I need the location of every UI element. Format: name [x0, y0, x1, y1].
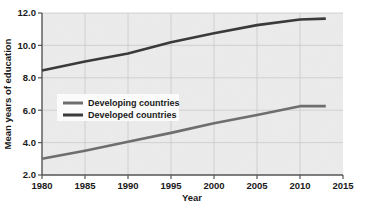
- line-chart-svg: 2.04.06.08.010.012.0 1980198519901995200…: [0, 0, 368, 205]
- legend-label-0: Developing countries: [88, 98, 180, 108]
- x-tick-label: 2015: [332, 180, 354, 191]
- y-tick-label: 2.0: [23, 169, 36, 180]
- chart-legend: Developing countriesDeveloped countries: [57, 94, 180, 121]
- x-axis-title: Year: [182, 192, 202, 203]
- y-tick-label: 12.0: [18, 7, 37, 18]
- x-tick-label: 1990: [117, 180, 138, 191]
- x-tick-label: 2010: [289, 180, 310, 191]
- x-tick-label: 2000: [203, 180, 224, 191]
- x-tick-label: 1985: [74, 180, 96, 191]
- y-tick-label: 6.0: [23, 105, 36, 116]
- y-tick-label: 8.0: [23, 72, 36, 83]
- legend-label-1: Developed countries: [88, 110, 177, 120]
- y-tick-label: 4.0: [23, 137, 36, 148]
- x-tick-label: 2005: [246, 180, 268, 191]
- x-tick-label: 1995: [160, 180, 182, 191]
- x-tick-label: 1980: [31, 180, 52, 191]
- chart-figure: 2.04.06.08.010.012.0 1980198519901995200…: [0, 0, 368, 205]
- y-tick-label: 10.0: [18, 40, 37, 51]
- y-axis-title: Mean years of education: [2, 38, 13, 149]
